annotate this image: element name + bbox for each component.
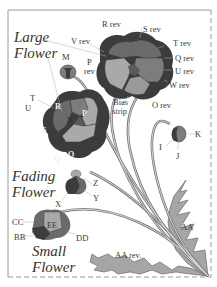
label-w-rev: W rev [169,81,190,90]
label-m: M [62,53,70,62]
label-y: Y [93,194,99,203]
fading-flower [65,170,86,194]
label-p-rev-line2: rev [84,67,95,76]
label-q-rev: Q rev [175,54,194,63]
label-s-rev: S rev [143,25,161,34]
large-flower-back [97,32,174,100]
label-j: J [176,152,179,161]
title-large-flower-line2: Flower [14,46,57,61]
label-dd: DD [76,234,88,243]
label-s: S [42,127,46,135]
label-bb: BB [14,233,25,242]
label-r-rev: R rev [102,20,121,29]
label-k: K [195,130,201,139]
label-aa-rev: AA rev. [115,251,141,260]
title-fading-flower-line2: Flower [12,185,55,200]
label-bias-strip-line2: strip [112,107,127,116]
label-p: P [82,110,87,118]
title-small-flower-line1: Small [32,244,66,259]
large-flower-front [43,89,110,158]
label-x: X [55,200,61,209]
label-q: Q [54,156,60,164]
label-u: U [25,104,31,113]
label-u-rev: U rev [175,67,194,76]
label-r: R [55,103,61,111]
label-t: T [30,94,35,103]
label-v-rev: V rev [71,37,90,46]
bud-k [172,126,186,142]
label-aa: AA [181,223,193,232]
title-small-flower-line2: Flower [32,260,75,275]
label-t-rev: T rev [173,39,191,48]
label-o-rev: O rev [152,101,171,110]
label-cc: CC [12,218,23,227]
bud-m [60,65,76,79]
poppy-pattern-diagram: Large Flower Fading Flower Small Flower … [0,0,217,287]
label-i: I [159,143,162,152]
label-o: O [68,151,74,159]
label-v: V [67,117,73,125]
label-ee: EE [47,222,57,230]
label-w: W [56,138,64,146]
label-z: Z [93,179,98,188]
title-large-flower-line1: Large [14,30,49,45]
title-fading-flower-line1: Fading [12,169,55,184]
